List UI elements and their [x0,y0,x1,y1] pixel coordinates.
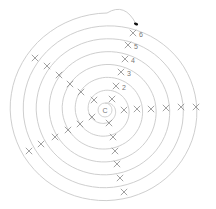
center-marker: C [98,103,112,117]
ray-label: 4 [131,57,135,64]
x-mark-icon [65,127,71,133]
x-mark-icon [121,189,127,195]
spiral-tail [107,9,136,24]
x-mark-icon [77,121,83,127]
x-mark-icon [112,148,118,154]
x-mark-icon [134,106,140,112]
x-mark-icon [32,55,38,61]
x-mark-icon [114,161,120,167]
ray-label: 6 [139,31,143,38]
x-mark-icon [113,83,119,89]
x-mark-icon [89,114,95,120]
x-mark-icon [117,175,123,181]
x-mark-icon [130,30,136,36]
x-mark-icon [163,105,169,111]
x-mark-icon [52,134,58,140]
x-marks [26,30,199,195]
spiral-end-dot [134,22,139,26]
ray-label: 5 [134,43,138,50]
ray-label: 3 [127,70,131,77]
diagram-canvas: 23456 C [0,0,216,209]
spiral-diagram: 23456 C [0,0,216,209]
x-mark-icon [121,107,127,113]
x-mark-icon [38,141,44,147]
x-mark-icon [109,96,115,102]
x-mark-icon [125,42,131,48]
ray-label: 2 [122,84,126,91]
x-mark-icon [122,56,128,62]
x-mark-icon [148,106,154,112]
x-mark-icon [91,97,97,103]
x-mark-icon [44,63,50,69]
center-label: C [102,107,107,114]
x-mark-icon [26,148,32,154]
x-mark-icon [193,104,199,110]
x-mark-icon [118,69,124,75]
x-mark-icon [67,81,73,87]
